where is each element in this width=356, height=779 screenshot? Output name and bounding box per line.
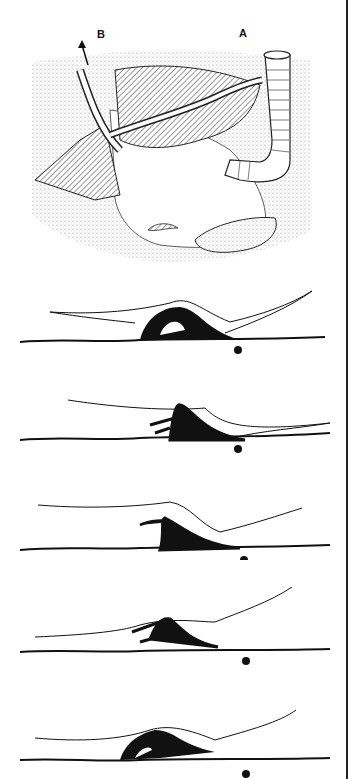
position-dot [242, 770, 250, 778]
label-b: B [97, 28, 105, 40]
position-dot [234, 445, 242, 453]
sequence-panel-5 [0, 700, 340, 779]
snail-silhouette [140, 518, 240, 550]
sequence-panel-3 [0, 490, 340, 560]
position-dot [234, 346, 242, 354]
snail-silhouette [150, 405, 245, 440]
sequence-panel-1 [0, 285, 340, 355]
vertical-divider [346, 0, 348, 779]
label-a: A [239, 27, 247, 39]
top-illustration [0, 0, 356, 270]
sequence-panel-2 [0, 383, 340, 453]
sequence-panel-4 [0, 587, 340, 667]
snail-silhouette [132, 619, 218, 647]
figure: B A [0, 0, 356, 779]
position-dot [240, 556, 248, 560]
snail-silhouette [140, 307, 240, 340]
position-dot [242, 657, 250, 665]
